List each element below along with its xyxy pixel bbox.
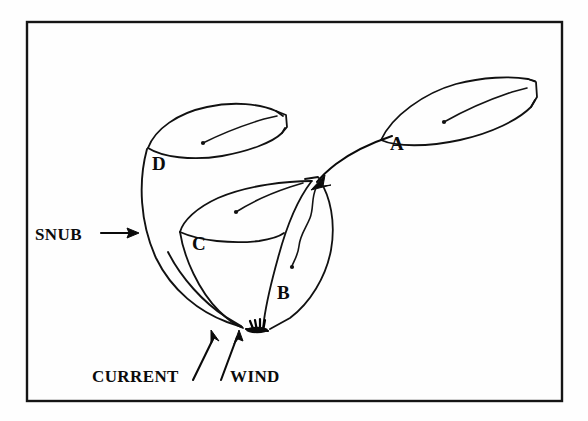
annotation-label-wind: WIND <box>230 367 280 386</box>
boat-d-deck-line <box>203 116 277 143</box>
boat-c-deck-line-end <box>234 210 238 214</box>
wind-arrow-head <box>234 330 243 344</box>
boat-d-deck-line-end <box>201 141 205 145</box>
boat-a-hull-top <box>381 77 535 140</box>
diagram-canvas: A B C D SNUB CURRENT WIND <box>0 0 588 421</box>
snub-rode-second-line <box>168 252 241 326</box>
anchor-mass <box>246 327 268 333</box>
current-arrow <box>193 330 219 380</box>
annotation-label-snub: SNUB <box>35 225 82 244</box>
annotation-label-current: CURRENT <box>92 367 179 386</box>
boat-d-hull-bottom <box>148 128 285 158</box>
boat-label-d: D <box>152 153 166 174</box>
snub-arrow <box>101 228 139 238</box>
boat-a <box>381 77 537 145</box>
boat-a-deck-line <box>444 88 527 122</box>
boat-c-hull-bottom <box>180 232 243 328</box>
boat-c-deck-line <box>236 183 303 212</box>
boat-a-deck-line-end <box>442 120 446 124</box>
boat-label-c: C <box>192 233 206 254</box>
boat-c <box>180 181 312 328</box>
swing-arrow-shaft <box>317 136 392 182</box>
current-arrow-head <box>211 330 219 344</box>
boat-d <box>148 104 287 158</box>
boat-b-deck-line <box>292 188 316 266</box>
anchor-icon <box>246 319 268 333</box>
snub-arrow-head <box>127 228 139 238</box>
boat-d-hull-top <box>148 104 283 148</box>
boat-b <box>263 177 333 329</box>
anchor-swing-diagram: A B C D SNUB CURRENT WIND <box>0 0 588 421</box>
boat-a-hull-bottom <box>381 100 535 145</box>
boat-label-b: B <box>277 282 290 303</box>
boat-b-deck-line-end <box>290 265 294 269</box>
boat-label-a: A <box>390 133 404 154</box>
boat-a-transom <box>528 79 537 107</box>
